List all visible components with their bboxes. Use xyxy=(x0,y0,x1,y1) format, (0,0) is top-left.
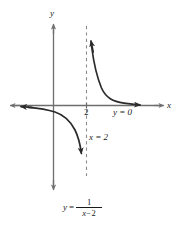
x-axis-label: x xyxy=(167,101,171,110)
vertical-asymptote-label: x = 2 xyxy=(89,133,108,142)
equation-denominator: x−2 xyxy=(80,208,98,217)
equation-equals-sign: = xyxy=(69,203,74,212)
equation-lhs: y xyxy=(63,203,67,212)
function-equation-label: y = 1 x−2 xyxy=(63,198,102,217)
denominator-constant: 2 xyxy=(91,208,96,218)
y-axis-label: y xyxy=(50,9,54,18)
horizontal-asymptote-label: y = 0 xyxy=(113,108,132,117)
equation-numerator: 1 xyxy=(85,198,93,207)
curve-right-branch xyxy=(91,41,140,105)
graph-canvas xyxy=(0,0,180,226)
equation-fraction: 1 x−2 xyxy=(76,198,102,217)
function-graph-figure: y x 2 y = 0 x = 2 y = 1 x−2 xyxy=(0,0,180,226)
curve-left-branch xyxy=(21,107,81,154)
x-tick-label-2: 2 xyxy=(84,108,89,117)
